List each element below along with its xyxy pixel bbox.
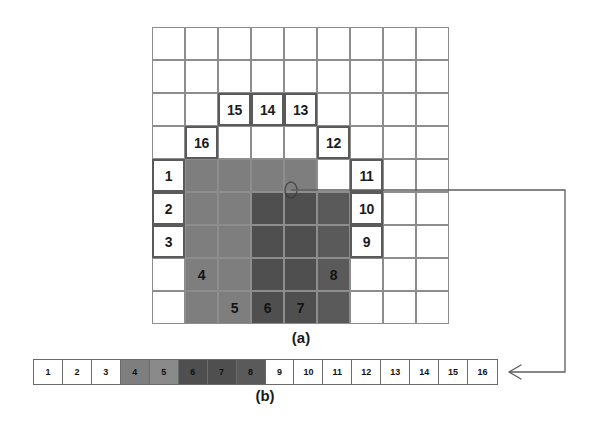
strip-cell-16: 16 <box>468 360 497 384</box>
strip-cell-3: 3 <box>92 360 121 384</box>
strip-cell-14: 14 <box>410 360 439 384</box>
strip-cell-6: 6 <box>179 360 208 384</box>
strip-cell-label: 8 <box>248 367 253 377</box>
spiral-grid-panel: 12345678910111213141516 <box>152 27 450 326</box>
spiral-step-label: 5 <box>231 300 239 316</box>
spiral-step-16: 16 <box>185 126 218 159</box>
spiral-step-label: 8 <box>330 267 338 283</box>
spiral-step-5: 5 <box>218 291 251 324</box>
strip-cell-label: 14 <box>419 367 429 377</box>
strip-cell-8: 8 <box>237 360 266 384</box>
spiral-step-label: 4 <box>198 267 206 283</box>
spiral-step-4: 4 <box>185 258 218 291</box>
spiral-step-label: 2 <box>165 201 173 217</box>
spiral-step-9: 9 <box>350 225 383 258</box>
spiral-step-11: 11 <box>350 159 383 192</box>
spiral-step-label: 6 <box>264 300 272 316</box>
spiral-step-7: 7 <box>284 291 317 324</box>
spiral-step-label: 10 <box>359 201 374 217</box>
spiral-step-15: 15 <box>218 93 251 126</box>
strip-cell-label: 15 <box>448 367 458 377</box>
numbered-cells-layer: 12345678910111213141516 <box>152 27 450 326</box>
strip-cell-label: 12 <box>361 367 371 377</box>
spiral-step-10: 10 <box>350 192 383 225</box>
strip-cell-1: 1 <box>34 360 63 384</box>
panel-a-caption: (a) <box>252 329 350 346</box>
spiral-step-13: 13 <box>284 93 317 126</box>
spiral-step-label: 16 <box>194 135 209 151</box>
strip-cell-15: 15 <box>439 360 468 384</box>
strip-cell-label: 11 <box>333 367 343 377</box>
spiral-step-label: 14 <box>260 102 275 118</box>
strip-cell-7: 7 <box>208 360 237 384</box>
spiral-step-3: 3 <box>152 225 185 258</box>
strip-cell-label: 9 <box>277 367 282 377</box>
arrow-head-icon <box>509 365 521 379</box>
spiral-step-6: 6 <box>251 291 284 324</box>
spiral-step-label: 15 <box>227 102 242 118</box>
strip-cell-label: 4 <box>132 367 137 377</box>
strip-cell-label: 7 <box>219 367 224 377</box>
strip-cell-4: 4 <box>121 360 150 384</box>
strip-cell-13: 13 <box>381 360 410 384</box>
strip-cell-5: 5 <box>150 360 179 384</box>
spiral-step-label: 9 <box>363 234 371 250</box>
spiral-step-label: 11 <box>359 168 373 184</box>
spiral-step-label: 3 <box>165 234 173 250</box>
spiral-step-2: 2 <box>152 192 185 225</box>
spiral-step-12: 12 <box>317 126 350 159</box>
strip-cell-label: 2 <box>74 367 79 377</box>
spiral-step-8: 8 <box>317 258 350 291</box>
strip-cell-label: 6 <box>190 367 195 377</box>
strip-cell-11: 11 <box>323 360 352 384</box>
strip-cell-label: 1 <box>45 367 50 377</box>
spiral-step-label: 12 <box>326 135 341 151</box>
spiral-step-1: 1 <box>152 159 185 192</box>
strip-cell-label: 3 <box>103 367 108 377</box>
panel-b-caption: (b) <box>215 387 315 404</box>
strip-cell-label: 16 <box>478 367 488 377</box>
linear-strip-panel: 12345678910111213141516 <box>33 359 498 385</box>
spiral-step-label: 13 <box>293 102 308 118</box>
strip-cell-label: 10 <box>303 367 313 377</box>
strip-cell-12: 12 <box>352 360 381 384</box>
spiral-step-label: 7 <box>297 300 305 316</box>
strip-cell-9: 9 <box>266 360 295 384</box>
strip-cell-label: 5 <box>161 367 166 377</box>
strip-cell-10: 10 <box>294 360 323 384</box>
spiral-scan-figure: 12345678910111213141516 (a) 123456789101… <box>0 0 598 428</box>
strip-cell-2: 2 <box>63 360 92 384</box>
spiral-step-14: 14 <box>251 93 284 126</box>
strip-cell-label: 13 <box>390 367 400 377</box>
spiral-step-label: 1 <box>165 168 173 184</box>
